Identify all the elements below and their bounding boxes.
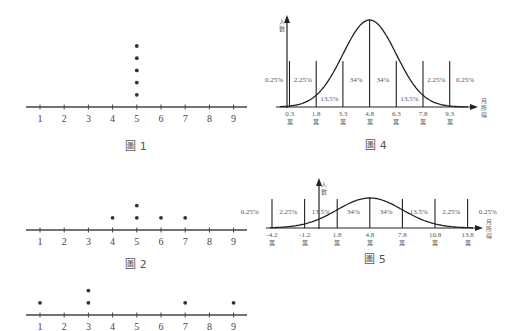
data-dot [159, 216, 163, 220]
figure-caption: 圖 1 [125, 140, 147, 153]
normal-chart-fig5: 人數月所得-4.2萬-1.2萬1.8萬4.8萬7.8萬10.8萬13.8萬0.2… [241, 178, 497, 266]
region-percent: 0.25% [479, 208, 497, 216]
tick-label: -1.2 [299, 231, 311, 239]
tick-label: 4 [110, 321, 115, 331]
data-dot [135, 81, 139, 85]
tick-label: 8 [207, 113, 212, 124]
region-percent: 2.25% [427, 76, 445, 84]
tick-label: 8 [207, 236, 212, 247]
tick-unit: 萬 [287, 118, 293, 126]
data-dot [135, 93, 139, 97]
region-percent: 13.5% [321, 95, 339, 103]
data-dot [135, 56, 139, 60]
tick-label: 9 [231, 321, 236, 331]
region-percent: 13.5% [312, 208, 330, 216]
figure-canvas: 123456789圖 1123456789圖 2123456789人數月所得0.… [0, 0, 508, 331]
x-axis-label: 得 [486, 232, 492, 239]
tick-label: 9.3 [445, 110, 454, 118]
tick-label: 5 [134, 321, 139, 331]
tick-label: 4 [110, 113, 115, 124]
data-dot [135, 216, 139, 220]
x-axis-label: 得 [481, 111, 487, 118]
tick-label: 6 [159, 113, 164, 124]
tick-label: 7.8 [398, 231, 407, 239]
data-dot [111, 216, 115, 220]
data-dot [183, 216, 187, 220]
region-percent: 13.5% [410, 208, 428, 216]
data-dot [87, 289, 91, 293]
tick-unit: 萬 [432, 239, 438, 247]
tick-label: 1.8 [333, 231, 342, 239]
data-dot [232, 301, 236, 305]
region-percent: 34% [347, 208, 360, 216]
region-percent: 34% [350, 76, 363, 84]
tick-label: 1 [38, 236, 43, 247]
x-axis-arrow-icon [470, 104, 478, 110]
tick-label: 0.3 [285, 110, 294, 118]
tick-label: 4 [110, 236, 115, 247]
tick-label: 1 [38, 321, 43, 331]
tick-label: 2 [62, 321, 67, 331]
tick-label: 3.3 [339, 110, 348, 118]
figure-caption: 圖 5 [364, 253, 386, 266]
region-percent: 2.25% [294, 76, 312, 84]
tick-unit: 萬 [399, 239, 405, 247]
y-axis-label: 人 [321, 181, 327, 188]
tick-unit: 萬 [367, 118, 373, 126]
tick-unit: 萬 [420, 118, 426, 126]
tick-unit: 萬 [367, 239, 373, 247]
data-dot [135, 204, 139, 208]
dot-plot-3: 123456789 [26, 289, 247, 331]
region-percent: 0.25% [241, 208, 259, 216]
region-percent: 0.25% [456, 76, 474, 84]
tick-label: 6 [159, 321, 164, 331]
tick-label: 9 [231, 236, 236, 247]
region-percent: 34% [377, 76, 390, 84]
tick-label: 6.3 [392, 110, 401, 118]
y-axis-label: 數 [279, 25, 285, 33]
data-dot [135, 44, 139, 48]
data-dot [183, 301, 187, 305]
tick-unit: 萬 [393, 118, 399, 126]
dot-plot-1: 123456789圖 1 [26, 44, 247, 153]
tick-label: 7 [183, 321, 188, 331]
region-percent: 13.5% [401, 95, 419, 103]
region-percent: 2.25% [442, 208, 460, 216]
normal-curve [280, 20, 468, 107]
tick-label: 5 [134, 236, 139, 247]
tick-label: 1 [38, 113, 43, 124]
tick-label: 2 [62, 236, 67, 247]
tick-unit: 萬 [334, 239, 340, 247]
tick-unit: 萬 [269, 239, 275, 247]
tick-label: 6 [159, 236, 164, 247]
x-axis-arrow-icon [475, 225, 483, 231]
dot-plot-2: 123456789圖 2 [26, 204, 247, 271]
tick-label: 8 [207, 321, 212, 331]
tick-label: 3 [86, 236, 91, 247]
tick-label: 7 [183, 236, 188, 247]
data-dot [38, 301, 42, 305]
region-percent: 0.25% [265, 76, 283, 84]
tick-label: 10.8 [429, 231, 442, 239]
figure-caption: 圖 2 [125, 258, 147, 271]
tick-unit: 萬 [447, 118, 453, 126]
tick-unit: 萬 [302, 239, 308, 247]
normal-chart-fig4: 人數月所得0.3萬1.8萬3.3萬4.8萬6.3萬7.8萬9.3萬0.25%2.… [265, 15, 487, 152]
data-dot [135, 69, 139, 73]
tick-label: -4.2 [266, 231, 278, 239]
tick-label: 9 [231, 113, 236, 124]
region-percent: 34% [380, 208, 393, 216]
tick-label: 4.8 [365, 231, 374, 239]
tick-unit: 萬 [340, 118, 346, 126]
region-percent: 2.25% [279, 208, 297, 216]
tick-label: 1.8 [312, 110, 321, 118]
tick-unit: 萬 [313, 118, 319, 126]
data-dot [87, 301, 91, 305]
tick-label: 3 [86, 113, 91, 124]
tick-label: 3 [86, 321, 91, 331]
y-axis-label: 人 [279, 18, 285, 25]
tick-label: 4.8 [365, 110, 374, 118]
figure-caption: 圖 4 [365, 139, 387, 152]
y-axis-label: 數 [321, 188, 327, 196]
tick-label: 2 [62, 113, 67, 124]
